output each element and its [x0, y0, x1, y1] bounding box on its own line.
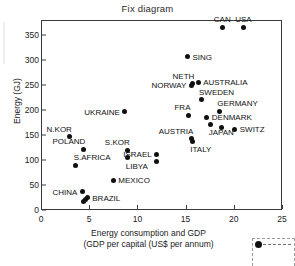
data-point-marker: [219, 125, 224, 130]
x-axis-title-line2: (GDP per capital (US$ per annum): [41, 239, 256, 250]
data-point-label: NORWAY: [151, 81, 186, 90]
data-point-label: S.KOR: [105, 138, 130, 147]
data-point-label: SING: [193, 52, 213, 61]
data-point-label: BRAZIL: [92, 193, 120, 202]
data-point-marker: [199, 97, 204, 102]
data-point-label: S.AFRICA: [74, 153, 111, 162]
x-tick-label: 5: [77, 214, 101, 224]
scan-edge-artifact: [3, 22, 5, 64]
data-point-marker: [73, 163, 78, 168]
data-point-label: FRA: [174, 103, 190, 112]
y-tick-label: 350: [13, 30, 39, 40]
data-point-label: NETH: [173, 71, 195, 80]
x-tick-label: 20: [222, 214, 246, 224]
x-tick-label: 0: [29, 214, 53, 224]
scatter-plot-area: CANUSASINGAUSTRALIANETHNORWAYSWEDENGERMA…: [41, 20, 282, 210]
x-tick-label: 25: [270, 214, 294, 224]
data-point-marker: [81, 147, 86, 152]
data-point-marker: [190, 139, 195, 144]
data-point-marker: [220, 25, 225, 30]
data-point-label: N.KOR: [47, 124, 72, 133]
y-axis-title: Energy (GJ): [12, 56, 22, 146]
data-point-marker: [122, 109, 127, 114]
data-point-label: AUSTRIA: [159, 126, 194, 135]
x-tick-label: 10: [125, 214, 149, 224]
x-axis-title: Energy consumption and GDP (GDP per capi…: [41, 228, 256, 250]
x-tick-label: 15: [174, 214, 198, 224]
data-point-marker: [208, 122, 213, 127]
data-point-label: UKRAINE: [84, 107, 120, 116]
data-point-marker: [185, 54, 190, 59]
data-point-marker: [241, 25, 246, 30]
data-point-marker: [186, 113, 191, 118]
data-point-label: CHINA: [53, 187, 78, 196]
data-point-marker: [204, 115, 209, 120]
data-point-marker: [80, 189, 85, 194]
y-tick-label: 100: [13, 155, 39, 165]
data-point-label: CAN: [214, 14, 231, 23]
data-point-marker: [232, 127, 237, 132]
data-point-marker: [111, 178, 116, 183]
data-point-marker: [81, 199, 86, 204]
data-point-label: POLAND: [53, 137, 86, 146]
data-point-label: GERMANY: [217, 99, 257, 108]
data-point-marker: [154, 152, 159, 157]
data-point-label: SWEDEN: [199, 87, 234, 96]
data-point-marker: [196, 80, 201, 85]
x-axis-title-line1: Energy consumption and GDP: [41, 228, 256, 239]
data-point-label: USA: [235, 14, 251, 23]
x-axis-tick-labels: 0510152025: [41, 210, 282, 224]
legend-dashed-line: [263, 244, 291, 245]
x-tick-mark: [282, 205, 283, 209]
data-point-label: ITALY: [190, 145, 211, 154]
data-point-label: MEXICO: [118, 176, 150, 185]
data-point-marker: [154, 159, 159, 164]
y-tick-label: 50: [13, 180, 39, 190]
legend-marker-icon: [255, 241, 262, 248]
data-point-label: LIBYA: [126, 161, 148, 170]
data-point-marker: [189, 83, 194, 88]
data-point-marker: [125, 155, 130, 160]
data-point-label: AUSTRALIA: [203, 78, 247, 87]
data-point-label: SWITZ: [240, 125, 265, 134]
data-point-label: DENMARK: [212, 113, 252, 122]
chart-title: Fix diagram: [0, 3, 295, 14]
chart-screenshot: Fix diagram 050100150200250300350 051015…: [0, 0, 295, 266]
